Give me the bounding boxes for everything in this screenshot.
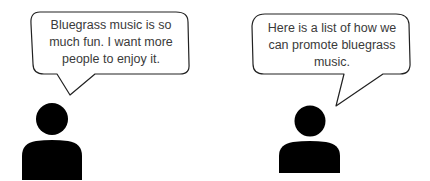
- conversation-diagram: Bluegrass music is so much fun. I want m…: [0, 0, 430, 181]
- person-icon: [279, 106, 340, 174]
- speech-text-right: Here is a list of how we can promote blu…: [262, 20, 402, 71]
- person-icon: [22, 103, 82, 180]
- speech-text-left: Bluegrass music is so much fun. I want m…: [38, 17, 184, 68]
